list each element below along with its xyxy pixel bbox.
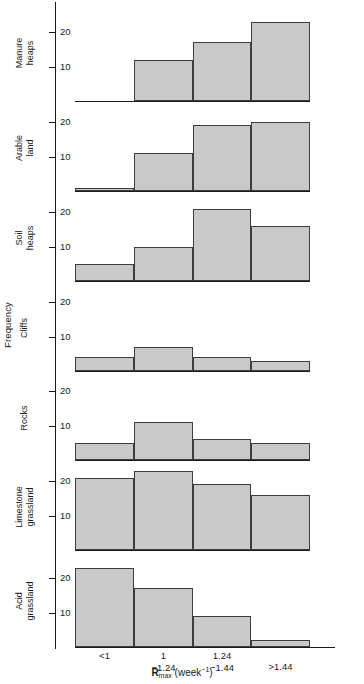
panel-label-line: grassland — [24, 581, 34, 620]
y-axis-tick — [49, 481, 55, 482]
bar — [193, 616, 251, 647]
x-axis-title: Rmax (week−1) — [0, 666, 364, 679]
bar — [251, 443, 310, 460]
y-axis-tick — [49, 247, 55, 248]
bar — [193, 357, 251, 371]
x-axis-tick-label: <1 — [75, 650, 134, 662]
x-axis-title-close: ) — [209, 667, 212, 678]
y-axis-tick — [49, 212, 55, 213]
y-axis-tick — [49, 516, 55, 517]
y-axis-line — [55, 2, 56, 103]
bar — [134, 588, 193, 647]
y-axis-tick-label: 10 — [60, 332, 71, 342]
bar — [251, 22, 310, 101]
panel-rocks: 1020Rocks — [0, 373, 364, 462]
panel-baseline — [75, 550, 310, 551]
y-axis-tick — [49, 578, 55, 579]
y-axis-tick — [49, 337, 55, 338]
bar — [251, 361, 310, 371]
y-axis-tick-label: 20 — [60, 207, 71, 217]
bar — [193, 42, 251, 101]
panel-label-line: Rocks — [19, 405, 29, 430]
bar — [134, 153, 193, 191]
panel-cliffs: 1020Cliffs — [0, 283, 364, 373]
panel-label-line: land — [24, 139, 34, 156]
y-axis-line — [55, 373, 56, 462]
bar — [75, 568, 134, 647]
y-axis-tick-label: 20 — [60, 297, 71, 307]
x-axis-title-main: R — [151, 667, 158, 678]
panel-label-line: Manure — [14, 37, 24, 68]
bar — [193, 439, 251, 460]
y-axis-tick-label: 10 — [60, 62, 71, 72]
panel-label-line: heaps — [24, 40, 34, 65]
bar — [251, 640, 310, 647]
bar — [75, 443, 134, 460]
bar — [193, 484, 251, 550]
y-axis-tick — [49, 32, 55, 33]
panel-stack: 1020Manureheaps1020Arableland1020Soilhea… — [0, 0, 364, 648]
y-axis-tick-label: 20 — [60, 386, 71, 396]
panel-arable-land: 1020Arableland — [0, 103, 364, 193]
y-axis-line — [55, 462, 56, 552]
y-axis-tick-label: 10 — [60, 421, 71, 431]
y-axis-line — [55, 103, 56, 193]
y-axis-tick — [49, 122, 55, 123]
y-axis-line — [55, 283, 56, 373]
y-axis-tick-label: 10 — [60, 608, 71, 618]
panel-label-line: Arable — [14, 135, 24, 161]
y-axis-tick — [49, 426, 55, 427]
bar — [134, 471, 193, 550]
panel-baseline — [75, 101, 310, 102]
panel-manure-heaps: 1020Manureheaps — [0, 2, 364, 103]
figure-histogram-panel: Frequency 1020Manureheaps1020Arableland1… — [0, 0, 364, 684]
panel-baseline — [75, 460, 310, 461]
panel-limestone-grassland: 1020Limestonegrassland — [0, 462, 364, 552]
panel-label-line: heaps — [24, 226, 34, 251]
y-axis-line — [55, 193, 56, 283]
bar — [251, 495, 310, 550]
y-axis-tick — [49, 157, 55, 158]
panel-baseline — [75, 281, 310, 282]
bar — [75, 478, 134, 550]
y-axis-tick-label: 10 — [60, 511, 71, 521]
y-axis-tick-label: 10 — [60, 242, 71, 252]
panel-acid-grassland: 1020Acidgrassland — [0, 552, 364, 649]
bar — [193, 125, 251, 191]
y-axis-tick-label: 20 — [60, 27, 71, 37]
bar — [75, 357, 134, 371]
panel-label-line: Limestone — [14, 486, 24, 528]
x-axis-title-sub: max — [159, 672, 172, 679]
bar — [134, 60, 193, 101]
bar — [251, 226, 310, 281]
y-axis-tick-label: 10 — [60, 152, 71, 162]
y-axis-tick — [49, 67, 55, 68]
y-axis-line — [55, 552, 56, 649]
y-axis-tick-label: 20 — [60, 573, 71, 583]
panel-baseline — [75, 371, 310, 372]
bar — [134, 347, 193, 371]
bar — [193, 209, 251, 281]
bar — [134, 247, 193, 282]
panel-label-line: Acid — [14, 592, 24, 610]
panel-label-line: grassland — [24, 487, 34, 526]
panel-label-line: Cliffs — [19, 318, 29, 338]
x-axis-line — [75, 647, 335, 648]
panel-baseline — [75, 191, 310, 192]
x-axis-title-rest: (week — [172, 667, 201, 678]
panel-soil-heaps: 1020Soilheaps — [0, 193, 364, 283]
bar — [134, 422, 193, 460]
panel-label-line: Soil — [14, 231, 24, 246]
bar — [75, 264, 134, 281]
y-axis-tick-label: 20 — [60, 117, 71, 127]
y-axis-tick — [49, 391, 55, 392]
bar — [251, 122, 310, 191]
y-axis-tick-label: 20 — [60, 476, 71, 486]
y-axis-tick — [49, 613, 55, 614]
y-axis-tick — [49, 302, 55, 303]
